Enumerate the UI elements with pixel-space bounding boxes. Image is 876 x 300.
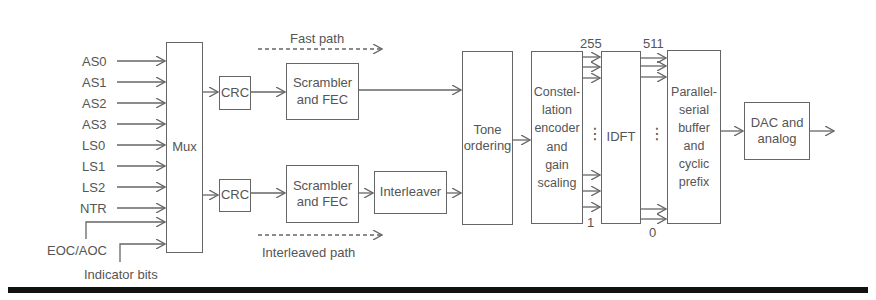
tone-ordering-block: Tone ordering	[462, 51, 513, 225]
crc-interleaved-block: CRC	[219, 179, 251, 212]
tone-ordering-line2: ordering	[464, 138, 512, 154]
input-label-ls0: LS0	[82, 139, 105, 152]
constellation-line: encoder	[534, 119, 579, 137]
scrambler-fast-line1: Scrambler	[293, 75, 352, 91]
constellation-line: lation	[542, 101, 572, 119]
crc-fast-block: CRC	[219, 76, 251, 110]
fast-path-label: Fast path	[290, 32, 344, 45]
constellation-line: gain	[545, 156, 569, 174]
dac-line1: DAC and	[751, 115, 804, 131]
interleaved-path-label: Interleaved path	[262, 246, 355, 259]
parallel-line: cyclic	[679, 155, 710, 173]
input-label-as3: AS3	[82, 118, 107, 131]
interleaver-label: Interleaver	[380, 184, 441, 200]
scrambler-fec-interleaved-block: Scrambler and FEC	[286, 165, 359, 223]
parallel-serial-buffer-block: Parallel- serial buffer and cyclic prefi…	[667, 50, 721, 224]
index-0-label: 0	[649, 226, 656, 239]
mux-label: Mux	[172, 139, 197, 155]
arrow-eoc	[86, 222, 165, 239]
dac-analog-block: DAC and analog	[744, 102, 810, 160]
crc-fast-label: CRC	[221, 85, 249, 101]
input-label-ls2: LS2	[82, 181, 105, 194]
constellation-line: scaling	[538, 174, 577, 192]
scrambler-fec-fast-block: Scrambler and FEC	[286, 63, 359, 120]
interleaver-block: Interleaver	[374, 171, 447, 214]
constellation-line: and	[547, 138, 568, 156]
mux-block: Mux	[166, 42, 203, 253]
indicator-bits-label: Indicator bits	[84, 268, 158, 281]
ellipsis-idft-parallel: ⋮	[649, 126, 665, 142]
parallel-line: prefix	[679, 173, 710, 191]
scrambler-interleaved-line1: Scrambler	[293, 178, 352, 194]
scrambler-fast-line2: and FEC	[297, 92, 348, 108]
input-label-as0: AS0	[82, 55, 107, 68]
constellation-line: Constel-	[534, 83, 581, 101]
constellation-encoder-block: Constel- lation encoder and gain scaling	[531, 51, 583, 224]
input-label-as1: AS1	[82, 76, 107, 89]
index-511-label: 511	[643, 37, 664, 50]
dac-line2: analog	[757, 131, 796, 147]
input-label-ntr: NTR	[80, 202, 107, 215]
idft-block: IDFT	[601, 51, 641, 224]
input-label-as2: AS2	[82, 97, 107, 110]
arrow-indicator	[120, 244, 165, 262]
input-label-ls1: LS1	[82, 160, 105, 173]
scrambler-interleaved-line2: and FEC	[297, 194, 348, 210]
eoc-aoc-label: EOC/AOC	[47, 244, 107, 257]
parallel-line: serial	[679, 101, 709, 119]
parallel-line: buffer	[678, 119, 710, 137]
index-255-label: 255	[580, 37, 602, 50]
parallel-line: Parallel-	[671, 83, 717, 101]
index-1-label: 1	[587, 216, 594, 229]
parallel-line: and	[684, 137, 705, 155]
idft-label: IDFT	[607, 129, 636, 145]
bottom-rule-divider	[8, 287, 868, 293]
tone-ordering-line1: Tone	[473, 122, 501, 138]
crc-interleaved-label: CRC	[221, 187, 249, 203]
